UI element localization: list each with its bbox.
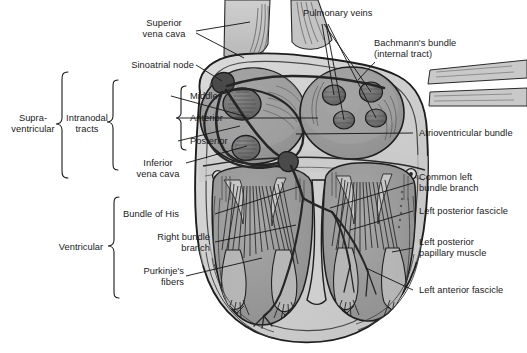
- label-left-posterior-fascicle: Left posterior fascicle: [419, 206, 508, 217]
- label-intranodal-tracts: Intranodal tracts: [64, 113, 110, 134]
- label-left-posterior-papillary-muscle: Left posterior papillary muscle: [419, 237, 486, 258]
- label-atrioventricular-bundle: Atrioventricular bundle: [419, 128, 513, 139]
- label-superior-vena-cava: Superior vena cava: [132, 18, 196, 39]
- label-left-anterior-fascicle: Left anterior fascicle: [419, 285, 503, 296]
- label-inferior-vena-cava: Inferior vena cava: [130, 158, 186, 179]
- label-bundle-of-his: Bundle of His: [123, 209, 179, 220]
- label-sinoatrial-node: Sinoatrial node: [96, 60, 194, 71]
- label-bachmanns-bundle: Bachmann's bundle (internal tract): [374, 38, 456, 59]
- heart-conduction-diagram: Superior vena cava Sinoatrial node Middl…: [0, 0, 527, 353]
- label-purkinjes-fibers: Purkinje's fibers: [118, 266, 184, 287]
- label-supraventricular: Supra- ventricular: [6, 113, 60, 134]
- label-right-bundle-branch: Right bundle branch: [118, 232, 210, 253]
- label-ventricular: Ventricular: [50, 242, 112, 253]
- label-middle: Middle: [190, 91, 218, 102]
- label-anterior: Anterior: [190, 113, 223, 124]
- label-common-left-bundle-branch: Common left bundle branch: [419, 172, 479, 193]
- brace-internodal-items: [176, 86, 186, 150]
- label-pulmonary-veins: Pulmonary veins: [303, 8, 372, 19]
- label-posterior: Posterior: [190, 136, 228, 147]
